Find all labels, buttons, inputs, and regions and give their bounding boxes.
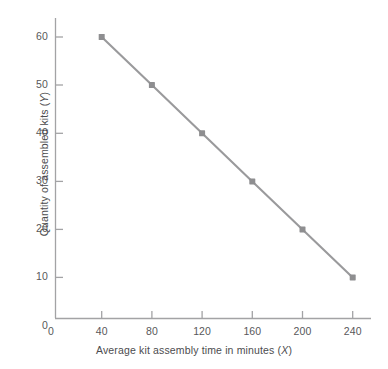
data-point-marker [99, 34, 105, 40]
x-tick-label-0: 0 [37, 325, 65, 337]
data-point-marker [149, 82, 155, 88]
y-axis-title-suffix: ) [38, 92, 50, 96]
data-point-marker [300, 226, 306, 232]
y-axis-ticks [56, 37, 64, 277]
x-tick-label-240: 240 [339, 325, 367, 337]
x-tick-label-120: 120 [188, 325, 216, 337]
x-tick-label-80: 80 [138, 325, 166, 337]
x-tick-label-160: 160 [238, 325, 266, 337]
y-axis-title-prefix: Quantity of assembled kits ( [38, 103, 50, 237]
line-chart-plot [0, 0, 388, 369]
data-point-marker [350, 274, 356, 280]
chart-figure: 60 50 40 30 20 10 0 0 40 80 120 160 200 … [0, 0, 388, 369]
y-axis-title: Quantity of assembled kits (Y) [38, 34, 50, 294]
x-axis-title-suffix: ) [288, 344, 292, 356]
x-axis-ticks [102, 311, 353, 319]
y-axis-title-variable: Y [38, 95, 50, 102]
x-axis-title-prefix: Average kit assembly time in minutes ( [96, 344, 281, 356]
x-tick-label-200: 200 [289, 325, 317, 337]
x-tick-label-40: 40 [88, 325, 116, 337]
data-point-marker [249, 178, 255, 184]
data-point-marker [199, 130, 205, 136]
x-axis-title: Average kit assembly time in minutes (X) [0, 344, 388, 356]
data-line-series-1 [102, 37, 353, 277]
